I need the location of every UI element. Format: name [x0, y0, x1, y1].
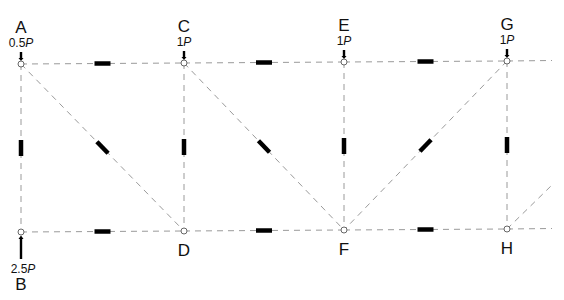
load-label-E: 1P [337, 34, 352, 48]
node-label-F: F [339, 240, 349, 259]
node-A [18, 61, 24, 67]
node-label-H: H [501, 239, 513, 258]
truss-diagram: 0.5P1P1P1P2.5PACEGBDFH [0, 0, 564, 300]
node-H [504, 226, 510, 232]
node-B [18, 229, 24, 235]
load-label-A: 0.5P [9, 36, 34, 50]
node-D [181, 228, 187, 234]
node-F [341, 227, 347, 233]
member-marker-GF [420, 140, 431, 152]
node-label-G: G [500, 15, 513, 34]
member-marker-AD [97, 142, 108, 153]
top-chord-continuation [507, 61, 552, 62]
node-C [181, 60, 187, 66]
node-E [341, 59, 347, 65]
node-label-A: A [15, 18, 27, 37]
member-markers-layer [21, 61, 507, 231]
load-label-G: 1P [500, 33, 515, 47]
reaction-label-B: 2.5P [11, 262, 36, 276]
load-label-C: 1P [177, 35, 192, 49]
reaction-arrowhead-B [19, 236, 24, 240]
node-label-B: B [15, 275, 26, 294]
force-arrows-layer [19, 49, 510, 259]
node-G [504, 58, 510, 64]
node-label-D: D [178, 241, 190, 260]
node-label-C: C [178, 17, 190, 36]
labels-layer: 0.5P1P1P1P2.5PACEGBDFH [9, 15, 515, 294]
diagonal-continuation [507, 185, 552, 229]
member-marker-CF [258, 141, 269, 153]
node-label-E: E [338, 16, 349, 35]
bottom-chord-continuation [507, 229, 552, 230]
